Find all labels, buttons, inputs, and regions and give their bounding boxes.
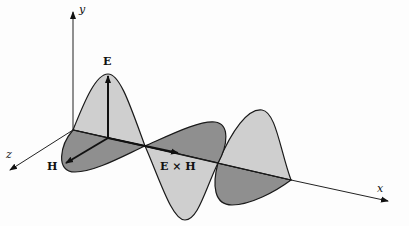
- em-wave-diagram: y x z E H E × H: [0, 0, 409, 226]
- x-axis: [291, 180, 388, 201]
- magnetic-label: H: [47, 160, 57, 173]
- poynting-label: E × H: [160, 160, 196, 173]
- y-axis-label: y: [79, 3, 85, 16]
- z-axis-label: z: [6, 148, 12, 161]
- electric-label: E: [103, 55, 111, 68]
- diagram-canvas: [0, 0, 409, 226]
- x-axis-label: x: [377, 182, 383, 195]
